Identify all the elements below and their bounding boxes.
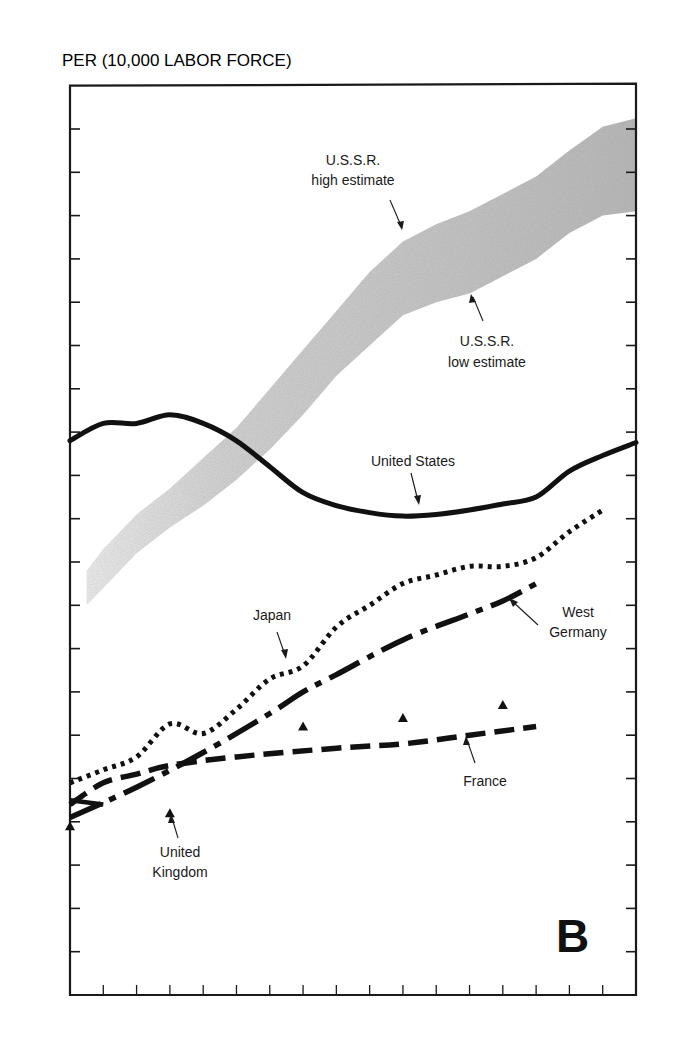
label-west-germany-line2: Germany: [549, 624, 607, 640]
label-ussr-low-line1: U.S.S.R.: [460, 333, 514, 349]
arrowhead-japan: [281, 649, 288, 659]
label-uk-line1: United: [160, 844, 200, 860]
uk-triangle-marker: [165, 808, 175, 817]
label-ussr-low-line2: low estimate: [448, 354, 526, 370]
y-axis-title: PER (10,000 LABOR FORCE): [62, 51, 292, 70]
series-layer: [70, 415, 636, 818]
ussr-band-layer: [87, 118, 636, 605]
arrow-west-germany: [512, 601, 538, 625]
arrowhead-united-states: [414, 495, 421, 505]
label-france: France: [463, 773, 507, 789]
label-west-germany-line1: West: [562, 604, 594, 620]
label-ussr-high-line2: high estimate: [311, 172, 394, 188]
uk-triangle-marker: [498, 700, 508, 709]
chart: PER (10,000 LABOR FORCE) U.S.S.R. high e…: [0, 0, 681, 1064]
panel-label: B: [556, 910, 589, 962]
uk-triangle-marker: [398, 713, 408, 722]
arrowhead-ussr-high: [397, 221, 404, 230]
series-line-japan: [70, 510, 603, 783]
label-united-states: United States: [371, 453, 455, 469]
ussr-band-texture: [87, 118, 636, 605]
label-uk-line2: Kingdom: [152, 864, 207, 880]
label-ussr-high-line1: U.S.S.R.: [326, 152, 380, 168]
uk-markers: [65, 700, 508, 830]
arrowhead-ussr-low: [469, 294, 476, 303]
uk-triangle-marker: [298, 722, 308, 731]
label-japan: Japan: [253, 607, 291, 623]
